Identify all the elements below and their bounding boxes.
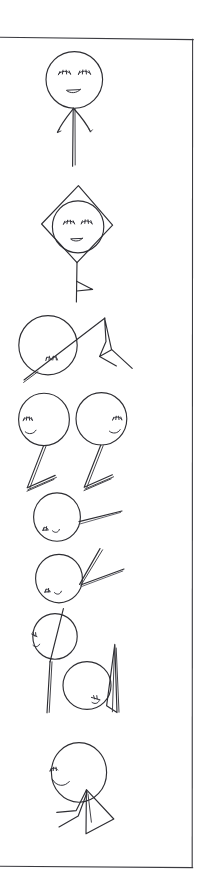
sketch-canvas: Hand-drawn stick figure sketch strip xyxy=(0,0,206,894)
sketch-illustration xyxy=(0,0,206,894)
